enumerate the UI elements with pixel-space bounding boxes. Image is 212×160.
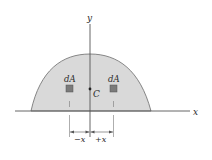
dimension-label-negative-x: −x bbox=[74, 135, 86, 144]
area-element-left bbox=[66, 85, 73, 92]
centroid-point bbox=[89, 88, 92, 91]
y-axis-label: y bbox=[86, 13, 93, 23]
element-label-right: dA bbox=[108, 74, 120, 84]
arrowhead bbox=[109, 131, 113, 134]
area-element-right bbox=[110, 85, 117, 92]
dimension-label-positive-x: +x bbox=[95, 135, 107, 144]
centroid-diagram: x y dA dA C −x +x bbox=[0, 0, 212, 160]
element-label-left: dA bbox=[64, 74, 76, 84]
arrowhead bbox=[70, 131, 74, 134]
arrowhead bbox=[86, 131, 90, 134]
centroid-label: C bbox=[93, 89, 100, 99]
shaded-area bbox=[31, 54, 151, 111]
x-axis-label: x bbox=[193, 107, 198, 117]
arrowhead bbox=[91, 131, 95, 134]
